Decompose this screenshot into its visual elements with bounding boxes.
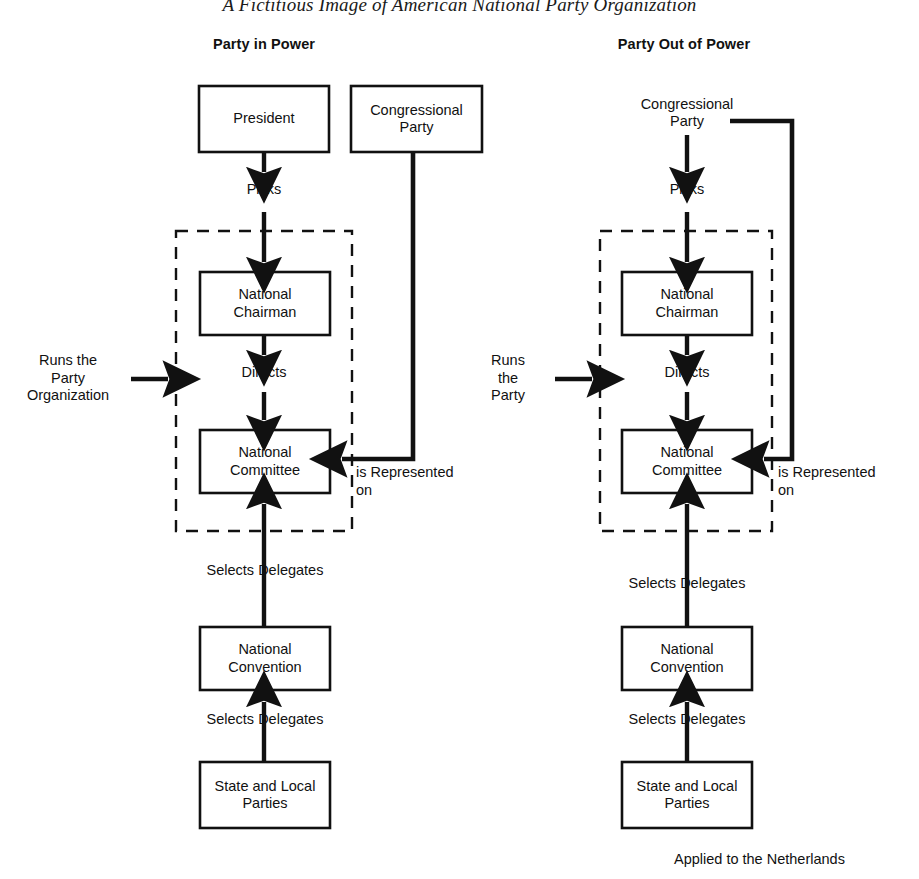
edge-label-directs-right: Directs	[627, 364, 747, 382]
box-national-convention-right[interactable]: National Convention	[622, 627, 752, 690]
box-national-convention[interactable]: National Convention	[200, 627, 330, 690]
edge-label-is-represented-on-right: is Represented on	[778, 464, 913, 499]
box-national-committee-right[interactable]: National Committee	[622, 430, 752, 493]
edge-label-picks-right: Picks	[627, 181, 747, 199]
box-state-and-local-parties-right[interactable]: State and Local Parties	[622, 762, 752, 828]
box-president[interactable]: President	[199, 86, 329, 152]
label-congressional-party-right: Congressional Party	[622, 88, 752, 138]
edge-label-directs: Directs	[204, 364, 324, 382]
edge-label-selects-delegates-upper: Selects Delegates	[184, 562, 346, 580]
edge-label-is-represented-on: is Represented on	[356, 464, 486, 499]
edge-label-picks: Picks	[204, 181, 324, 199]
diagram-canvas: A Fictitious Image of American National …	[0, 0, 919, 879]
edge-label-selects-delegates-lower-right: Selects Delegates	[606, 711, 768, 729]
edge-label-selects-delegates-lower: Selects Delegates	[184, 711, 346, 729]
footnote-applied-to-the-netherlands: Applied to the Netherlands	[674, 851, 845, 867]
edge-label-runs-the-party-right: Runs the Party	[468, 352, 548, 405]
box-national-chairman[interactable]: National Chairman	[200, 272, 330, 335]
box-national-committee[interactable]: National Committee	[200, 430, 330, 493]
box-congressional-party[interactable]: Congressional Party	[351, 86, 482, 152]
edge-label-selects-delegates-upper-right: Selects Delegates	[606, 575, 768, 593]
box-state-and-local-parties[interactable]: State and Local Parties	[200, 762, 330, 828]
box-national-chairman-right[interactable]: National Chairman	[622, 272, 752, 335]
edge-label-runs-the-party-organization: Runs the Party Organization	[8, 352, 128, 405]
